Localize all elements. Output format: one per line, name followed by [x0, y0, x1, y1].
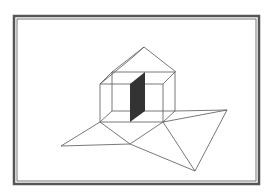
wire-line: [61, 122, 100, 146]
house-wireframe-figure: [0, 0, 271, 193]
wire-line: [144, 47, 176, 72]
wire-line: [112, 47, 144, 72]
wire-line: [100, 57, 133, 84]
wire-line: [100, 111, 112, 122]
wire-line: [130, 122, 163, 144]
wire-line: [61, 144, 130, 146]
dark-panel: [130, 72, 145, 122]
wire-line: [133, 47, 144, 57]
wire-line: [175, 110, 227, 111]
wire-line: [100, 122, 130, 144]
wire-line: [163, 110, 227, 122]
wire-line: [163, 122, 195, 171]
wire-line: [100, 72, 112, 84]
wire-line: [195, 110, 227, 171]
wire-line: [163, 72, 175, 84]
wire-line: [130, 144, 195, 171]
